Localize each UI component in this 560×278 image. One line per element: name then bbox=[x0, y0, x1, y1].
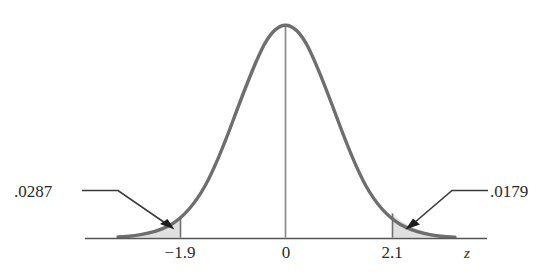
tick-label-2-1: 2.1 bbox=[360, 244, 424, 261]
left-annotation-leader-line bbox=[82, 191, 170, 227]
distribution-plot bbox=[0, 0, 560, 278]
normal-distribution-figure: −1.9 0 2.1 z .0287 .0179 bbox=[0, 0, 560, 278]
left-area-annotation-label: .0287 bbox=[14, 183, 52, 200]
right-annotation-leader-line bbox=[411, 191, 489, 227]
tick-label-minus-1-9: −1.9 bbox=[148, 244, 212, 261]
tick-label-zero: 0 bbox=[254, 244, 318, 261]
right-area-annotation-label: .0179 bbox=[490, 183, 528, 200]
x-axis-label-z: z bbox=[464, 246, 470, 261]
normal-curve bbox=[118, 25, 455, 237]
